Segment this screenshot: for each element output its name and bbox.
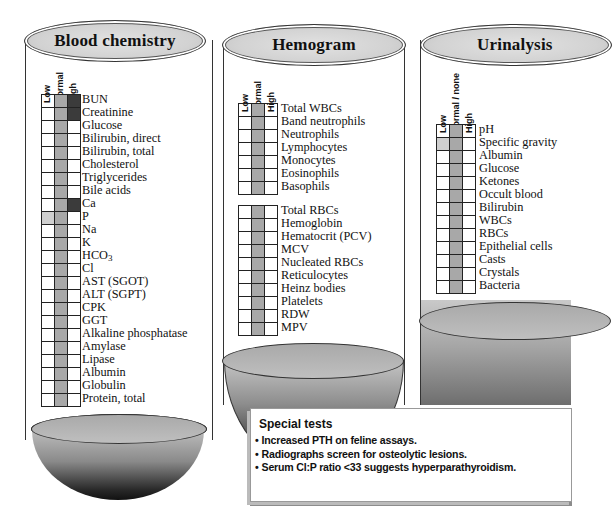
cell-high — [68, 160, 81, 173]
cell-normal — [450, 255, 463, 268]
cell-high — [68, 342, 81, 355]
cell-low — [239, 297, 252, 310]
cell-normal — [252, 323, 265, 336]
cell-normal — [450, 177, 463, 190]
cell-high — [68, 199, 81, 212]
cell-high — [463, 255, 476, 268]
blood-chemistry-grid — [41, 94, 81, 407]
cell-low — [42, 121, 55, 134]
cell-high — [463, 177, 476, 190]
table-row — [437, 177, 476, 190]
row-label: Basophils — [281, 180, 365, 193]
cell-normal — [55, 264, 68, 277]
table-row — [437, 125, 476, 138]
hemogram-wbc-labels: Total WBCsBand neutrophilsNeutrophilsLym… — [281, 102, 365, 193]
table-row — [42, 173, 81, 186]
cell-normal — [252, 297, 265, 310]
cell-low — [42, 394, 55, 407]
tube-title: Hemogram — [272, 35, 356, 55]
cell-high — [68, 173, 81, 186]
table-row — [42, 329, 81, 342]
cell-low — [42, 329, 55, 342]
cell-normal — [55, 329, 68, 342]
cell-normal — [450, 190, 463, 203]
cell-normal — [252, 104, 265, 117]
cell-normal — [252, 206, 265, 219]
table-row — [437, 281, 476, 294]
table-row — [239, 182, 278, 195]
cell-high — [68, 290, 81, 303]
cell-high — [68, 316, 81, 329]
table-row — [437, 242, 476, 255]
cell-high — [68, 381, 81, 394]
cell-low — [239, 169, 252, 182]
cell-low — [42, 277, 55, 290]
cell-high — [265, 143, 278, 156]
cell-low — [437, 138, 450, 151]
table-row — [239, 219, 278, 232]
liquid-surface — [419, 302, 611, 340]
liquid-surface-ring — [31, 414, 207, 444]
table-row — [437, 268, 476, 281]
table-row — [42, 238, 81, 251]
table-row — [42, 303, 81, 316]
cell-normal — [55, 121, 68, 134]
tube-cap: Hemogram — [222, 24, 406, 66]
cell-normal — [55, 225, 68, 238]
cell-normal — [252, 169, 265, 182]
cell-normal — [450, 151, 463, 164]
cell-high — [265, 169, 278, 182]
cell-normal — [450, 268, 463, 281]
cell-low — [239, 258, 252, 271]
cell-high — [265, 284, 278, 297]
cell-normal — [55, 355, 68, 368]
blood-chemistry-labels: BUNCreatinineGlucoseBilirubin, directBil… — [82, 93, 188, 405]
cell-low — [437, 190, 450, 203]
cell-high — [68, 238, 81, 251]
special-tests-box: Special tests Increased PTH on feline as… — [250, 408, 572, 502]
cell-normal — [55, 277, 68, 290]
cell-high — [463, 268, 476, 281]
cell-normal — [55, 199, 68, 212]
cell-high — [265, 130, 278, 143]
table-row — [239, 245, 278, 258]
cell-low — [42, 199, 55, 212]
special-test-item: Radiographs screen for osteolytic lesion… — [255, 448, 516, 462]
cell-high — [265, 245, 278, 258]
cell-low — [239, 182, 252, 195]
table-row — [437, 203, 476, 216]
hemogram-rbc-labels: Total RBCsHemoglobinHematocrit (PCV)MCVN… — [281, 204, 372, 334]
cell-high — [68, 355, 81, 368]
cell-normal — [55, 173, 68, 186]
cell-high — [265, 104, 278, 117]
cell-low — [239, 323, 252, 336]
table-row — [437, 164, 476, 177]
cell-low — [437, 203, 450, 216]
table-row — [42, 355, 81, 368]
table-row — [42, 225, 81, 238]
cell-high — [265, 117, 278, 130]
cell-normal — [252, 182, 265, 195]
table-row — [42, 134, 81, 147]
cell-high — [463, 281, 476, 294]
tube-cap: Blood chemistry — [24, 20, 206, 62]
cell-normal — [55, 212, 68, 225]
cell-low — [437, 281, 450, 294]
cell-high — [68, 121, 81, 134]
cell-normal — [55, 186, 68, 199]
cell-low — [437, 268, 450, 281]
cell-high — [68, 186, 81, 199]
special-test-item: Increased PTH on feline assays. — [255, 434, 516, 448]
table-row — [239, 104, 278, 117]
cell-high — [68, 134, 81, 147]
cell-low — [42, 95, 55, 108]
cell-normal — [450, 216, 463, 229]
cell-normal — [55, 368, 68, 381]
cell-normal — [450, 203, 463, 216]
cell-low — [239, 143, 252, 156]
row-label: Protein, total — [82, 392, 188, 405]
cell-low — [42, 212, 55, 225]
table-row — [437, 255, 476, 268]
cell-normal — [450, 229, 463, 242]
cell-high — [68, 277, 81, 290]
